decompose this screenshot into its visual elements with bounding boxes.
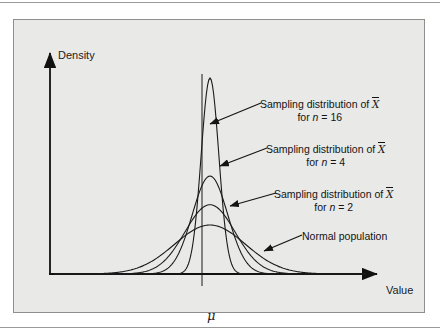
x-bar-symbol: X (378, 143, 385, 155)
x-bar-symbol: X (386, 188, 393, 200)
callout-n4-line1: Sampling distribution of X (266, 143, 386, 156)
callout-n16-line1: Sampling distribution of X (260, 98, 380, 111)
callout-n2-line1: Sampling distribution of X (274, 188, 394, 201)
callout-n4-text: Sampling distribution of (266, 143, 378, 155)
callout-n2-text: Sampling distribution of (274, 188, 386, 200)
figure-panel: Density Value μ Sampling distribution of… (13, 19, 425, 313)
callout-arrow-population (264, 235, 302, 251)
top-divider-rule (0, 2, 440, 3)
callout-n4-for: for (306, 156, 321, 168)
callout-n16-value: = 16 (318, 111, 342, 123)
x-bar-symbol: X (372, 98, 379, 110)
callout-n2-line2: for n = 2 (274, 201, 394, 214)
callout-n16-text: Sampling distribution of (260, 98, 372, 110)
callout-arrow-n2 (230, 193, 276, 206)
callout-arrow-n4 (220, 148, 267, 166)
callout-population-text: Normal population (302, 230, 387, 242)
callout-label-n4: Sampling distribution of X for n = 4 (266, 143, 386, 169)
callout-label-n2: Sampling distribution of X for n = 2 (274, 188, 394, 214)
figure-page: Density Value μ Sampling distribution of… (0, 0, 440, 334)
bottom-divider-rule (0, 327, 440, 328)
callout-n16-for: for (297, 111, 312, 123)
callout-n4-value: = 4 (327, 156, 345, 168)
mean-tick-label: μ (207, 308, 215, 323)
callout-label-n16: Sampling distribution of X for n = 16 (260, 98, 380, 124)
callout-label-population: Normal population (302, 230, 387, 243)
x-axis-label: Value (386, 284, 413, 296)
callout-arrow-n16 (210, 103, 261, 124)
callout-population-line1: Normal population (302, 230, 387, 243)
callout-n2-value: = 2 (335, 201, 353, 213)
callout-n2-for: for (314, 201, 329, 213)
callout-n16-line2: for n = 16 (260, 111, 380, 124)
callout-n4-line2: for n = 4 (266, 156, 386, 169)
y-axis-label: Density (58, 49, 95, 61)
